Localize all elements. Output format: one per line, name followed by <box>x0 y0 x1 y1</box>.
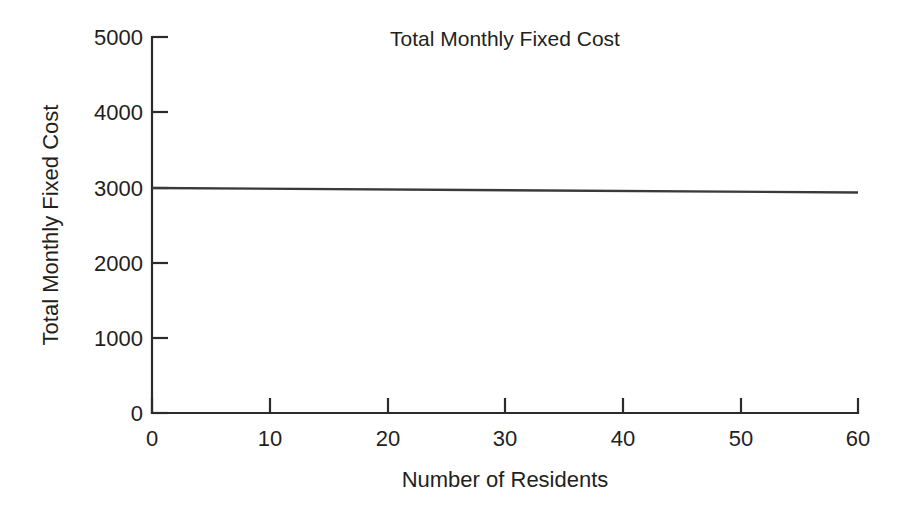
x-tick-label: 60 <box>846 426 870 451</box>
x-tick-label: 20 <box>376 426 400 451</box>
y-tick-label: 5000 <box>94 25 143 50</box>
y-tick-label: 4000 <box>94 100 143 125</box>
y-axis-title: Total Monthly Fixed Cost <box>38 105 63 346</box>
y-tick-label: 0 <box>131 401 143 426</box>
x-tick-label: 10 <box>258 426 282 451</box>
x-tick-label: 40 <box>611 426 635 451</box>
x-tick-label: 30 <box>493 426 517 451</box>
line-chart: Total Monthly Fixed Cost 5000 40 <box>0 0 909 513</box>
x-tick-label: 0 <box>146 426 158 451</box>
chart-figure: Total Monthly Fixed Cost 5000 40 <box>0 0 909 513</box>
chart-title: Total Monthly Fixed Cost <box>390 27 620 50</box>
y-tick-label: 3000 <box>94 176 143 201</box>
x-tick-label: 50 <box>729 426 753 451</box>
y-tick-label: 2000 <box>94 251 143 276</box>
y-tick-label: 1000 <box>94 326 143 351</box>
x-axis-title: Number of Residents <box>402 467 609 492</box>
